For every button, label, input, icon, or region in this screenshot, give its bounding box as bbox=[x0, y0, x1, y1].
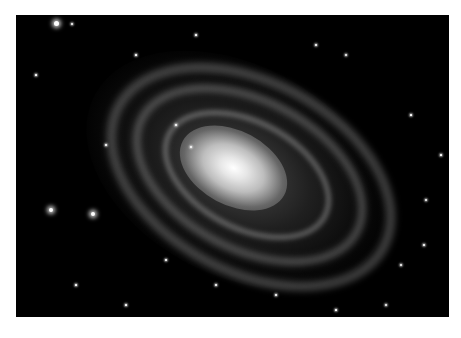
star bbox=[275, 294, 277, 296]
star bbox=[175, 124, 177, 126]
star bbox=[195, 34, 196, 35]
star bbox=[190, 146, 192, 148]
star bbox=[105, 144, 107, 146]
star bbox=[345, 54, 347, 56]
star bbox=[75, 284, 76, 285]
star bbox=[165, 259, 167, 261]
star bbox=[315, 44, 317, 46]
star bbox=[425, 199, 427, 201]
star bbox=[335, 309, 336, 310]
galaxy-photo bbox=[16, 15, 449, 317]
star bbox=[35, 74, 36, 75]
star bbox=[71, 23, 73, 25]
star bbox=[385, 304, 387, 306]
star bbox=[410, 114, 411, 115]
star bbox=[215, 284, 217, 286]
star bbox=[135, 54, 136, 55]
star bbox=[54, 21, 59, 26]
star bbox=[91, 212, 95, 216]
star bbox=[440, 154, 441, 155]
star bbox=[400, 264, 402, 266]
star bbox=[125, 304, 126, 305]
star bbox=[423, 244, 425, 246]
star bbox=[49, 208, 53, 212]
